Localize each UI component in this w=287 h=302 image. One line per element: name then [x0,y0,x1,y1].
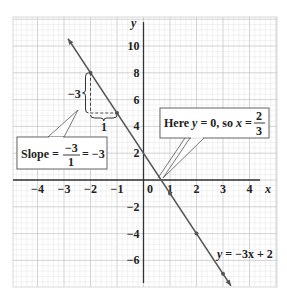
x-axis-label: x [264,182,271,196]
x-tick-label: −4 [31,182,44,196]
linear-graph: −4−3−2−11234108642−2−4−6 Slope = −3 1 = … [0,0,287,302]
x-tick-label: 4 [247,182,253,196]
slope-denominator: 1 [68,155,74,169]
y-tick-label: −2 [127,200,140,214]
slope-numerator: −3 [65,141,78,155]
data-point [221,272,225,276]
here-eq: = [242,116,252,130]
x-tick-label: 3 [220,182,226,196]
x-tick-label: −3 [58,182,71,196]
slope-result: = −3 [82,147,105,161]
intercept-numerator: 2 [256,109,262,123]
intercept-callout-pointer [163,138,204,178]
slope-callout: Slope = −3 1 = −3 [17,110,107,169]
y-tick-label: 6 [134,93,140,107]
intercept-callout: Here y = 0, so x = 2 3 [158,108,269,178]
here-pre: Here [164,116,192,130]
y-axis-label: y [129,16,137,30]
slope-callout-pointer [48,110,78,137]
data-point [168,191,172,195]
here-mid: = 0, so [197,116,236,130]
y-tick-label: 8 [134,66,140,80]
x-tick-label: 2 [194,182,200,196]
y-tick-label: −6 [127,253,140,267]
slope-word: Slope = [21,147,59,161]
y-tick-label: 10 [128,39,140,53]
x-tick-label: −2 [84,182,97,196]
y-tick-label: −4 [127,227,140,241]
run-label: 1 [101,120,107,134]
rise-label: −3 [68,87,81,101]
line-equation-label: y = −3x + 2 [215,247,273,261]
svg-text:Here y = 0, so x =: Here y = 0, so x = [164,116,252,130]
intercept-denominator: 3 [256,124,262,138]
y-tick-label: 2 [134,146,140,160]
data-point [195,232,199,236]
origin-label: 0 [147,182,153,196]
y-tick-label: 4 [134,119,140,133]
here-x: x [235,116,242,130]
x-tick-label: −1 [111,182,124,196]
